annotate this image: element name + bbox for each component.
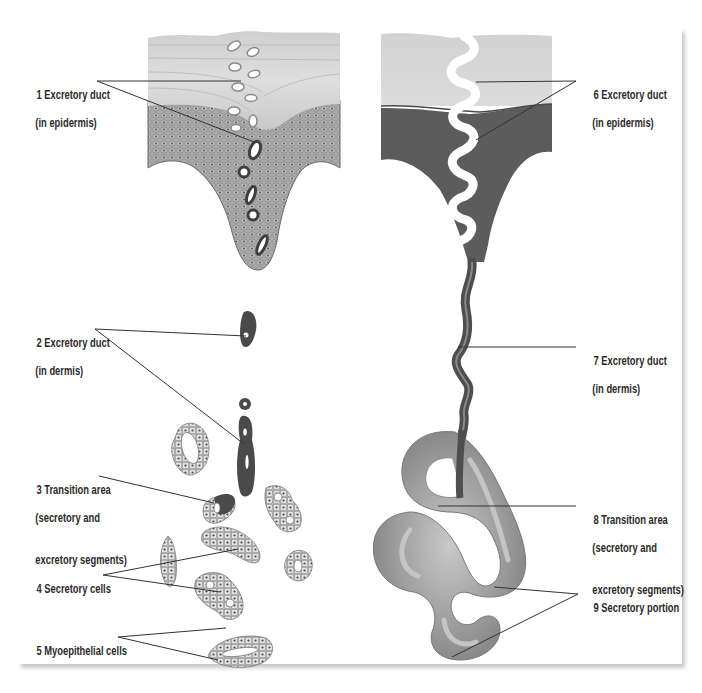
label-number: 1 [36, 88, 41, 102]
label-number: 5 [36, 644, 41, 658]
label-text: Excretory duct [44, 88, 110, 102]
label-text: Secretory portion [601, 601, 679, 615]
label-4-secretory-cells: 4 Secretory cells [26, 568, 111, 610]
label-text: Transition area [44, 483, 111, 497]
label-number: 2 [36, 336, 41, 350]
label-number: 8 [593, 513, 598, 527]
label-text: Secretory cells [44, 582, 111, 596]
label-text: Excretory duct [601, 88, 667, 102]
label-subtext: (in dermis) [26, 364, 110, 378]
label-number: 3 [36, 483, 41, 497]
label-text: Transition area [601, 513, 668, 527]
label-number: 7 [593, 354, 598, 368]
left-dermis-sections [237, 311, 256, 496]
label-1-excretory-duct-epidermis: 1 Excretory duct (in epidermis) [26, 74, 110, 158]
label-subtext: (in epidermis) [26, 116, 110, 130]
label-9-secretory-portion: 9 Secretory portion [583, 587, 679, 629]
left-epidermis-section [148, 31, 340, 270]
label-text: Excretory duct [601, 354, 667, 368]
right-epidermis-3d [381, 33, 552, 498]
right-secretory-coil-3d [373, 430, 525, 660]
label-number: 6 [593, 88, 598, 102]
label-number: 4 [36, 582, 41, 596]
label-5-myoepithelial-cells: 5 Myoepithelial cells [26, 630, 127, 672]
label-text: Myoepithelial cells [44, 644, 127, 658]
label-text: Excretory duct [44, 336, 110, 350]
figure-canvas: 1 Excretory duct (in epidermis) 2 Excret… [0, 0, 702, 693]
label-subtext-2: excretory segments) [26, 553, 127, 567]
label-2-excretory-duct-dermis: 2 Excretory duct (in dermis) [26, 322, 110, 406]
label-subtext: (secretory and [26, 511, 127, 525]
label-subtext: (in dermis) [583, 382, 667, 396]
label-6-excretory-duct-epidermis: 6 Excretory duct (in epidermis) [583, 74, 667, 158]
label-subtext: (in epidermis) [583, 116, 667, 130]
label-number: 9 [593, 601, 598, 615]
left-secretory-sections [161, 423, 313, 667]
label-subtext: (secretory and [583, 541, 684, 555]
label-7-excretory-duct-dermis: 7 Excretory duct (in dermis) [583, 340, 667, 424]
